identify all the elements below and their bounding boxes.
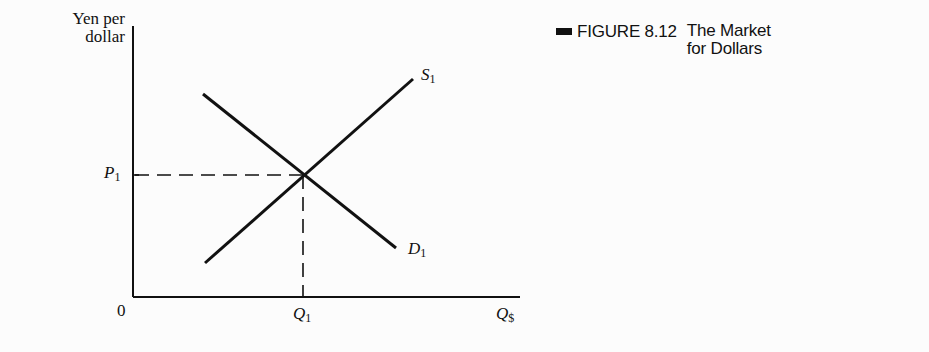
d1-label: D1 (408, 240, 426, 260)
demand-curve-d1 (203, 94, 396, 248)
origin-label: 0 (117, 302, 126, 320)
y-axis-label-line1: Yen per (72, 10, 125, 28)
d1-label-main: D (408, 239, 420, 258)
x-axis-label-sub: $ (508, 311, 514, 325)
figure-number: FIGURE 8.12 (577, 22, 677, 42)
x-axis-label-main: Q (496, 304, 508, 323)
p1-label-main: P (104, 163, 114, 182)
figure-caption: FIGURE 8.12 The Market for Dollars (556, 22, 787, 58)
q1-label-main: Q (293, 304, 305, 323)
q1-label: Q1 (293, 305, 311, 325)
q1-label-sub: 1 (305, 311, 311, 325)
s1-label: S1 (421, 66, 436, 86)
plot-area (0, 0, 929, 352)
caption-bar-icon (556, 28, 572, 35)
p1-label: P1 (104, 164, 120, 184)
y-axis-label-line2: dollar (72, 28, 125, 46)
d1-label-sub: 1 (420, 246, 426, 260)
s1-label-sub: 1 (430, 72, 436, 86)
x-axis-label: Q$ (496, 305, 514, 325)
s1-label-main: S (421, 65, 430, 84)
y-axis-label: Yen per dollar (72, 10, 125, 46)
figure-title: The Market for Dollars (687, 22, 787, 58)
figure: Yen per dollar P1 0 Q1 Q$ S1 D1 FIGURE 8… (0, 0, 929, 352)
p1-label-sub: 1 (114, 170, 120, 184)
